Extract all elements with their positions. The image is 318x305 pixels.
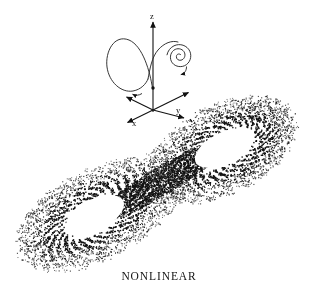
nonlinear-attractor-figure: z y x NONLINEAR [0, 0, 318, 305]
figure-caption: NONLINEAR [0, 270, 318, 282]
caption-layer: NONLINEAR [0, 0, 318, 305]
